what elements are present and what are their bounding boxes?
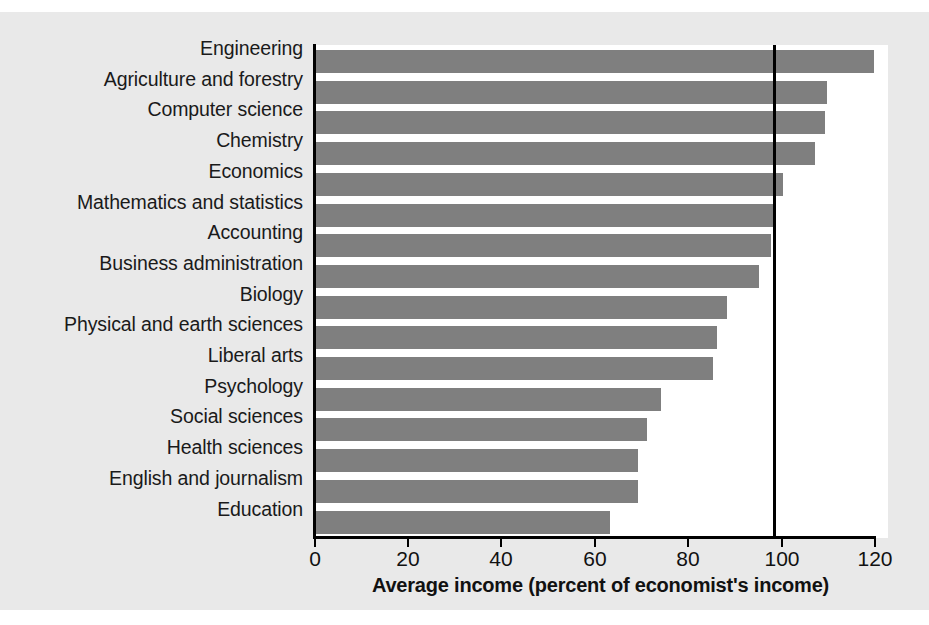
x-tick-label-40: 40 xyxy=(471,547,531,571)
category-label-biology: Biology xyxy=(0,279,303,310)
bar-physical-and-earth-sciences xyxy=(316,326,717,349)
category-label-mathematics-and-statistics: Mathematics and statistics xyxy=(0,187,303,218)
bar-education xyxy=(316,511,610,534)
category-axis-labels: Engineering Agriculture and forestry Com… xyxy=(0,33,303,525)
category-label-computer-science: Computer science xyxy=(0,94,303,125)
category-label-chemistry: Chemistry xyxy=(0,125,303,156)
category-label-agriculture-and-forestry: Agriculture and forestry xyxy=(0,64,303,95)
category-label-english-and-journalism: English and journalism xyxy=(0,463,303,494)
bar-liberal-arts xyxy=(316,357,713,380)
category-label-economics: Economics xyxy=(0,156,303,187)
bar-accounting xyxy=(316,234,771,257)
x-tick-label-20: 20 xyxy=(378,547,438,571)
category-label-physical-and-earth-sciences: Physical and earth sciences xyxy=(0,309,303,340)
bar-chemistry xyxy=(316,142,815,165)
category-label-health-sciences: Health sciences xyxy=(0,432,303,463)
category-label-engineering: Engineering xyxy=(0,33,303,64)
bar-engineering xyxy=(316,50,874,73)
bar-economics xyxy=(316,173,783,196)
bar-computer-science xyxy=(316,111,825,134)
x-tick-mark-20 xyxy=(407,537,409,547)
bar-health-sciences xyxy=(316,449,638,472)
plot-area xyxy=(313,45,888,538)
y-axis-line xyxy=(313,44,316,538)
x-tick-mark-120 xyxy=(874,537,876,547)
category-label-education: Education xyxy=(0,494,303,525)
x-tick-label-0: 0 xyxy=(285,547,345,571)
bar-agriculture-and-forestry xyxy=(316,81,827,104)
category-label-psychology: Psychology xyxy=(0,371,303,402)
x-tick-mark-60 xyxy=(594,537,596,547)
bar-biology xyxy=(316,296,727,319)
reference-line-100 xyxy=(773,45,776,537)
x-tick-label-60: 60 xyxy=(565,547,625,571)
bar-psychology xyxy=(316,388,661,411)
x-tick-mark-0 xyxy=(314,537,316,547)
category-label-business-administration: Business administration xyxy=(0,248,303,279)
x-tick-mark-80 xyxy=(687,537,689,547)
bar-english-and-journalism xyxy=(316,480,638,503)
x-tick-label-120: 120 xyxy=(845,547,905,571)
bar-business-administration xyxy=(316,265,759,288)
figure-background: Engineering Agriculture and forestry Com… xyxy=(0,12,929,610)
category-label-accounting: Accounting xyxy=(0,217,303,248)
x-axis-title: Average income (percent of economist's i… xyxy=(313,574,888,597)
bar-mathematics-and-statistics xyxy=(316,204,776,227)
x-tick-label-80: 80 xyxy=(658,547,718,571)
x-tick-mark-100 xyxy=(781,537,783,547)
category-label-liberal-arts: Liberal arts xyxy=(0,340,303,371)
x-tick-label-100: 100 xyxy=(752,547,812,571)
bar-social-sciences xyxy=(316,418,647,441)
x-tick-mark-40 xyxy=(500,537,502,547)
category-label-social-sciences: Social sciences xyxy=(0,401,303,432)
